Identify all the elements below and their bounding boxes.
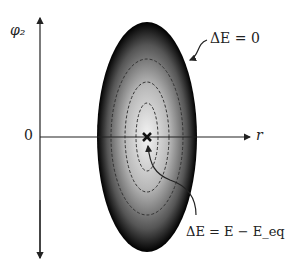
energy-annotation: ΔE = E − E_eq <box>186 224 285 239</box>
energy-landscape-diagram: φ₂ r 0 ΔE = 0 ΔE = E − E_eq <box>0 0 285 268</box>
boundary-annotation: ΔE = 0 <box>210 30 260 46</box>
origin-label: 0 <box>24 127 33 143</box>
y-axis-label: φ₂ <box>10 22 25 38</box>
boundary-pointer-arrow <box>190 40 207 60</box>
x-axis-label: r <box>256 127 263 143</box>
